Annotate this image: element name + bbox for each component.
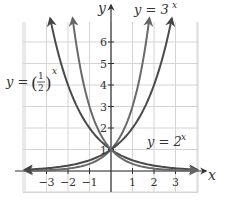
y-tick-label: 5 (100, 58, 107, 71)
label-3x-base: y = 3 (133, 2, 169, 17)
x-tick-label: −1 (81, 176, 97, 189)
frac-num: 1 (38, 71, 44, 81)
label-3-pow-x: y = 3 x (133, 0, 177, 17)
x-tick-label: 2 (151, 176, 158, 189)
label-2x-exp: x (181, 132, 186, 142)
label-2x-base: y = 2 (146, 134, 182, 149)
x-axis-label: x (208, 167, 216, 183)
label-2-pow-x: y = 2 x (146, 132, 186, 149)
left-paren: ( (31, 73, 38, 93)
exponential-graph: −3−2−1123123456 y x y = 3 x y = 2 x y = … (0, 0, 226, 202)
y-tick-label: 1 (100, 144, 107, 157)
y-tick-label: 6 (100, 36, 107, 49)
label-half-pow-x: y = ( 1 2 ) x (5, 66, 57, 93)
y-axis-label: y (97, 0, 107, 16)
frac-den: 2 (38, 83, 44, 93)
x-tick-label: −2 (60, 176, 76, 189)
y-tick-label: 4 (100, 79, 107, 92)
y-tick-label: 3 (100, 101, 107, 114)
x-tick-label: 3 (172, 176, 179, 189)
right-paren: ) (45, 73, 52, 93)
x-tick-label: −3 (38, 176, 54, 189)
label-half-exp: x (52, 66, 57, 76)
axes (15, 5, 206, 192)
x-tick-label: 1 (129, 176, 136, 189)
y-tick-label: 2 (100, 122, 107, 135)
label-half-prefix: y = (5, 74, 28, 89)
label-3x-exp: x (172, 0, 177, 10)
